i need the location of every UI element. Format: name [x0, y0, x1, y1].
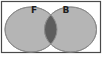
left-set-label: F	[31, 5, 37, 15]
right-set-label: B	[63, 5, 70, 15]
venn-diagram: F B	[0, 0, 107, 57]
venn-diagram-canvas: F B	[0, 0, 107, 57]
